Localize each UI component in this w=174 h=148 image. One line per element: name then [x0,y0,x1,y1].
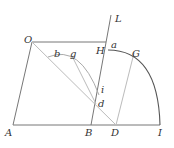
label-d: d [98,98,104,109]
label-A: A [4,127,12,138]
arc-HGI [108,50,160,125]
label-B: B [84,127,92,138]
label-I: I [157,127,163,138]
label-b: b [54,48,60,59]
label-G: G [132,48,140,59]
segment-OA [13,42,32,125]
label-L: L [114,13,122,24]
segment-DG [116,53,134,125]
label-g: g [70,48,76,59]
label-H: H [95,45,105,56]
label-O: O [24,34,32,45]
label-a: a [111,39,117,50]
label-D: D [110,127,119,138]
geometry-diagram: O A B D I H L a G b g i d [0,0,174,148]
label-i: i [101,84,104,95]
arc-bgi [48,54,99,95]
